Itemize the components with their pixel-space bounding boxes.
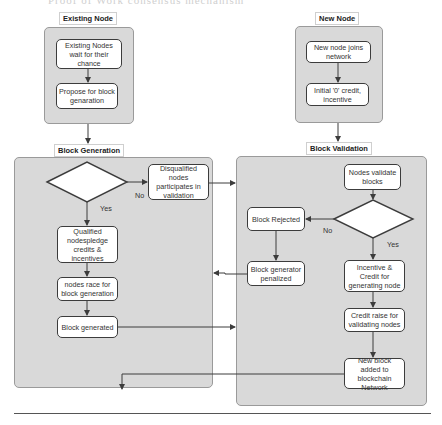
node-nodes-race: nodes race for block generation	[57, 277, 118, 301]
node-incentive-credit: Incentive & Credit for generating node	[344, 260, 405, 292]
label-threshold-yes: Yes	[100, 204, 112, 213]
node-nodes-validate-blocks: Nodes validate blocks	[344, 164, 401, 190]
label-threshold-no: No	[135, 191, 144, 200]
node-new-block-added: New block added to blockchain Network	[344, 358, 405, 389]
label-validation-no: No	[323, 226, 332, 235]
node-qualified-nodes-pledge: Qualified nodespledge credits & incentiv…	[57, 226, 118, 263]
label-validation-yes: Yes	[387, 240, 399, 249]
lane-label-existing-node: Existing Node	[59, 12, 117, 25]
node-block-generated: Block generated	[57, 316, 118, 338]
decision-successful-validation: Successful validation	[345, 205, 400, 233]
lane-label-block-validation: Block Validation	[306, 142, 372, 155]
page-header-faded: Proof of Work consensus mechanism	[48, 0, 244, 6]
decision-node-credit-threshold: Node credit > threshold?	[62, 167, 112, 197]
node-existing-nodes-wait: Existing Nodes wait for their chance	[56, 39, 122, 69]
node-disqualified-nodes: Disqualified nodes participates in valid…	[148, 164, 209, 200]
node-initial-credit: Initial '0' credit, incentive	[306, 83, 369, 106]
node-credit-raise: Credit raise for validating nodes	[344, 308, 405, 332]
node-block-rejected: Block Rejected	[247, 207, 305, 231]
node-block-generator-penalized: Block generator penalized	[247, 261, 305, 286]
footer-divider	[14, 413, 431, 414]
node-new-node-joins: New node joins network	[306, 41, 371, 63]
lane-label-block-generation: Block Generation	[54, 144, 124, 157]
lane-label-new-node: New Node	[315, 12, 359, 25]
node-propose-block-generation: Propose for block genaration	[56, 83, 118, 109]
